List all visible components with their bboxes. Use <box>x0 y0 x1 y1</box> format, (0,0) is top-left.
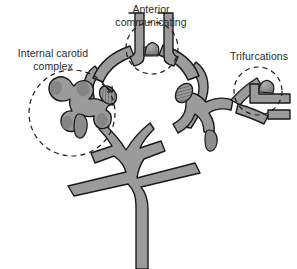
label-internal-carotid-complex: Internal carotid complex <box>4 47 102 72</box>
anatomical-figure: Internal carotid complex Anterior commun… <box>0 0 297 269</box>
label-anterior-communicating: Anterior communicating <box>92 3 210 28</box>
right-pendant-aneurysm <box>205 130 217 151</box>
anterior-communicating-aneurysm <box>145 43 159 55</box>
trifurcation-branch-far-right <box>268 110 290 119</box>
circle-of-willis-diagram <box>0 0 297 269</box>
carotid-pendant-aneurysm <box>74 114 87 138</box>
basilar-artery-trunk <box>68 123 200 269</box>
label-trifurcations: Trifurcations <box>222 50 296 63</box>
right-trifurcation-aneurysm <box>259 80 274 93</box>
